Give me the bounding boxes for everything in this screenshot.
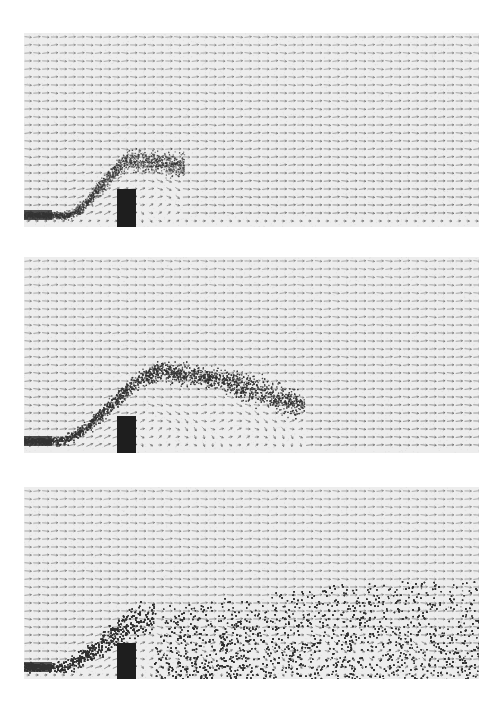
velocity-field-2	[24, 257, 479, 453]
flow-snapshot-2	[24, 257, 479, 453]
flow-snapshot-1	[24, 33, 479, 227]
flow-snapshot-3	[24, 487, 479, 679]
obstacle-block	[117, 189, 136, 227]
velocity-field-1	[24, 33, 479, 227]
velocity-field-3	[24, 487, 479, 679]
obstacle-block	[117, 416, 136, 453]
obstacle-block	[117, 643, 136, 679]
